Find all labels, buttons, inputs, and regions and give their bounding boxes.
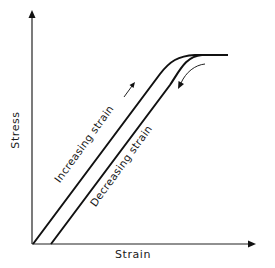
- x-axis-label: Strain: [115, 248, 151, 261]
- y-axis-label: Stress: [9, 111, 22, 148]
- increasing-direction-arrow-icon: [124, 82, 135, 97]
- x-axis-arrow-icon: [248, 241, 256, 248]
- y-axis: [29, 10, 36, 244]
- x-axis: [32, 241, 256, 248]
- y-axis-arrow-icon: [29, 10, 36, 18]
- increasing-strain-label: Increasing strain: [52, 103, 116, 185]
- decreasing-strain-label: Decreasing strain: [87, 123, 154, 209]
- stress-strain-chart: Stress Strain Increasing strain Decreasi…: [0, 0, 275, 268]
